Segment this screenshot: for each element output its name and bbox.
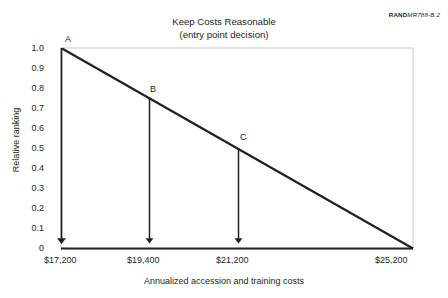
series-line-relative-ranking [62,49,413,249]
chart-plot-area [0,0,448,298]
figure-container: RANDMR788-B.2 Keep Costs Reasonable (ent… [0,0,448,298]
